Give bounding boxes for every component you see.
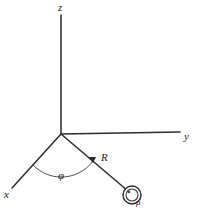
coordinate-diagram [0,0,198,212]
particle-center-dot [128,191,131,194]
z-axis-label: z [58,2,62,13]
magnetic-moment-label: μ [136,198,141,207]
y-axis-line [61,132,180,134]
x-axis-line [12,134,61,188]
y-axis-label: y [184,131,189,142]
azimuthal-angle-label: φ [58,170,64,181]
radius-vector-line [61,134,128,191]
radius-vector-label: R [101,152,108,163]
x-axis-label: x [4,189,9,200]
figure-canvas: z y x R φ μ [0,0,198,212]
